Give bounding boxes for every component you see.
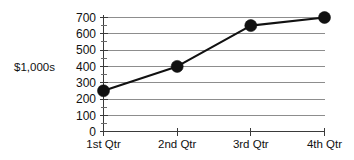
x-tick-label-4th-qtr: 4th Qtr bbox=[307, 138, 342, 150]
x-tick-label-3rd-qtr: 3rd Qtr bbox=[233, 138, 269, 150]
data-point-1st-qtr[interactable] bbox=[98, 85, 110, 97]
chart-background bbox=[0, 0, 354, 160]
screenshot-root: 700 600 500 400 300 200 100 0 1st Qtr 2n… bbox=[0, 0, 354, 160]
y-tick-label-0: 0 bbox=[89, 125, 96, 139]
y-tick-label-100: 100 bbox=[76, 109, 96, 123]
y-tick-label-400: 400 bbox=[76, 60, 96, 74]
data-point-3rd-qtr[interactable] bbox=[245, 20, 257, 32]
y-tick-label-200: 200 bbox=[76, 92, 96, 106]
chart-canvas: 700 600 500 400 300 200 100 0 1st Qtr 2n… bbox=[0, 0, 354, 160]
data-point-4th-qtr[interactable] bbox=[319, 12, 331, 24]
y-axis-title: $1,000s bbox=[14, 61, 55, 73]
data-point-2nd-qtr[interactable] bbox=[171, 60, 183, 72]
x-tick-label-2nd-qtr: 2nd Qtr bbox=[158, 138, 197, 150]
y-tick-label-500: 500 bbox=[76, 43, 96, 57]
y-tick-label-300: 300 bbox=[76, 76, 96, 90]
line-chart-figure: 700 600 500 400 300 200 100 0 1st Qtr 2n… bbox=[0, 0, 354, 160]
x-tick-label-1st-qtr: 1st Qtr bbox=[86, 138, 121, 150]
y-tick-label-600: 600 bbox=[76, 27, 96, 41]
y-tick-label-700: 700 bbox=[76, 11, 96, 25]
